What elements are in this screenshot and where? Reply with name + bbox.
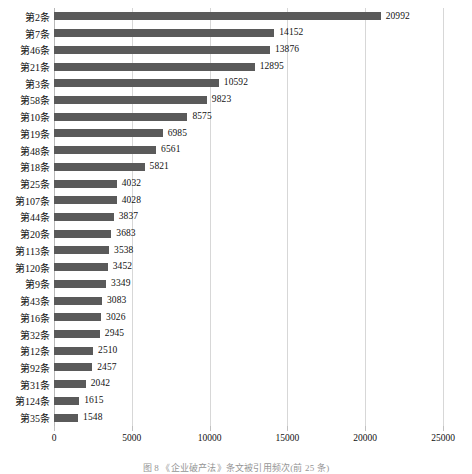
category-label: 第48条 [20,142,50,159]
category-label: 第58条 [20,92,50,109]
bar-row: 10592 [54,75,443,92]
category-label: 第46条 [20,41,50,58]
bar-row: 1615 [54,393,443,410]
bar-row: 20992 [54,8,443,25]
bar-row: 3026 [54,309,443,326]
bar [54,180,117,188]
bar-value-label: 3683 [116,229,135,239]
bar-row: 13876 [54,41,443,58]
category-label: 第12条 [20,342,50,359]
bar [54,347,93,355]
bar-value-label: 1548 [83,413,102,423]
bar [54,280,106,288]
bar-value-label: 3349 [111,279,130,289]
bar-value-label: 3452 [113,262,132,272]
bar [54,230,111,238]
bar-value-label: 10592 [224,78,248,88]
bar [54,29,274,37]
category-label: 第107条 [15,192,50,209]
axis-tick-label: 10000 [198,433,222,443]
bar [54,246,109,254]
bar [54,397,79,405]
value-axis: 0500010000150002000025000 [54,426,443,446]
bar-row: 5821 [54,158,443,175]
axis-tick-label: 0 [52,433,57,443]
bar-row: 2945 [54,326,443,343]
bar [54,79,219,87]
bar-value-label: 6561 [161,145,180,155]
bar-row: 4028 [54,192,443,209]
bar-value-label: 2510 [98,346,117,356]
figure-caption: 图 8 《企业破产法》条文被引用频次(前 25 条) [0,461,472,474]
bar [54,313,101,321]
bar-value-label: 5821 [150,162,169,172]
bar [54,129,163,137]
category-label: 第10条 [20,108,50,125]
bar-value-label: 6985 [168,129,187,139]
bar-value-label: 14152 [279,28,303,38]
bar-row: 4032 [54,175,443,192]
axis-tick-label: 15000 [276,433,300,443]
bar-value-label: 12895 [260,62,284,72]
axis-tick [54,426,55,431]
category-label: 第43条 [20,292,50,309]
bar [54,363,92,371]
category-label: 第113条 [15,242,50,259]
bar-row: 1548 [54,409,443,426]
bar-value-label: 2457 [97,363,116,373]
bar-series: 2099214152138761289510592982385756985656… [54,8,443,426]
axis-tick [365,426,366,431]
bar-row: 3837 [54,209,443,226]
bar [54,380,86,388]
bar [54,163,145,171]
bar-row: 3349 [54,276,443,293]
bar-row: 3683 [54,225,443,242]
gridline [443,8,444,426]
category-label: 第25条 [20,175,50,192]
axis-tick-label: 25000 [431,433,455,443]
bar-row: 12895 [54,58,443,75]
bar-value-label: 9823 [212,95,231,105]
category-label: 第120条 [15,259,50,276]
bar-value-label: 1615 [84,396,103,406]
axis-tick [132,426,133,431]
bar-value-label: 3026 [106,313,125,323]
category-label: 第7条 [25,25,50,42]
axis-tick-label: 5000 [122,433,141,443]
bar-value-label: 2042 [91,379,110,389]
plot-area: 2099214152138761289510592982385756985656… [54,8,443,426]
category-label: 第21条 [20,58,50,75]
bar-row: 3452 [54,259,443,276]
bar-row: 2510 [54,342,443,359]
bar-value-label: 2945 [105,329,124,339]
category-label: 第32条 [20,326,50,343]
bar-value-label: 3837 [119,212,138,222]
axis-tick [287,426,288,431]
bar-value-label: 4028 [122,196,141,206]
bar [54,297,102,305]
bar-value-label: 8575 [192,112,211,122]
bar [54,263,108,271]
axis-tick [443,426,444,431]
bar [54,113,187,121]
bar-row: 6561 [54,142,443,159]
bar-row: 14152 [54,25,443,42]
axis-tick [210,426,211,431]
bar-value-label: 20992 [386,12,410,22]
bar [54,63,255,71]
bar [54,12,381,20]
category-label: 第18条 [20,158,50,175]
bar-value-label: 13876 [275,45,299,55]
category-label: 第44条 [20,209,50,226]
bar-value-label: 4032 [122,179,141,189]
category-label: 第9条 [25,276,50,293]
bar-row: 6985 [54,125,443,142]
bar [54,146,156,154]
bar [54,46,270,54]
category-label: 第19条 [20,125,50,142]
bar-row: 3083 [54,292,443,309]
bar-value-label: 3538 [114,246,133,256]
category-axis: 第2条第7条第46条第21条第3条第58条第10条第19条第48条第18条第25… [0,8,50,426]
bar [54,330,100,338]
bar [54,196,117,204]
